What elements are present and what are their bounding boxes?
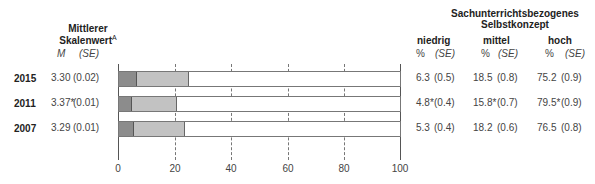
- niedrig-2015: 6.3: [416, 72, 430, 83]
- selfconcept-header-line2: Selbstkonzept: [440, 19, 590, 30]
- bar-segment-mittel: [137, 72, 189, 86]
- tick-0: 0: [115, 163, 121, 174]
- bar-2007: [118, 121, 401, 137]
- tick-20: 20: [169, 163, 180, 174]
- mean-header-line1: Mittlerer: [48, 23, 128, 34]
- row-mse-2015: (0.02): [73, 72, 99, 83]
- hoch-se-2015: (0.9): [561, 72, 582, 83]
- tick-80: 80: [338, 163, 349, 174]
- bar-2011: [118, 96, 401, 112]
- bar-segment-hoch: [189, 72, 400, 86]
- row-year-2011: 2011: [14, 98, 36, 109]
- row-m-2015: 3.30: [51, 72, 70, 83]
- hoch-se-2007: (0.8): [561, 122, 582, 133]
- mittel-se-2011: (0.7): [497, 97, 518, 108]
- niedrig-2011: 4.8*: [416, 97, 434, 108]
- row-m-2011: 3.37*: [51, 97, 74, 108]
- mittel-se-2007: (0.6): [497, 122, 518, 133]
- niedrig-se-2011: (0.4): [434, 97, 455, 108]
- hoch-pct-header: %: [545, 48, 554, 59]
- mittel-se-header: (SE): [498, 48, 518, 59]
- mean-header-superscript: A: [112, 34, 117, 41]
- bar-segment-hoch: [185, 122, 400, 136]
- hoch-se-2011: (0.9): [561, 97, 582, 108]
- mean-header: Mittlerer SkalenwertA: [48, 23, 128, 46]
- bar-segment-niedrig: [119, 122, 134, 136]
- hoch-se-header: (SE): [565, 48, 585, 59]
- hoch-2007: 76.5: [537, 122, 556, 133]
- hoch-2011: 79.5*: [537, 97, 560, 108]
- mittel-pct-header: %: [481, 48, 490, 59]
- selfconcept-header: Sachunterrichtsbezogenes Selbstkonzept: [440, 8, 590, 30]
- bar-segment-niedrig: [119, 72, 137, 86]
- row-mse-2011: (0.01): [73, 97, 99, 108]
- row-year-2015: 2015: [14, 73, 36, 84]
- bar-2015: [118, 71, 401, 87]
- bar-segment-mittel: [132, 97, 176, 111]
- mittel-se-2015: (0.8): [497, 72, 518, 83]
- group-label-mittel: mittel: [483, 35, 510, 46]
- mittel-2015: 18.5: [473, 72, 492, 83]
- niedrig-2007: 5.3: [416, 122, 430, 133]
- bar-segment-mittel: [134, 122, 185, 136]
- mean-col-se: (SE): [79, 48, 99, 59]
- tick-100: 100: [392, 163, 409, 174]
- selfconcept-header-line1: Sachunterrichtsbezogenes: [440, 8, 590, 19]
- group-label-hoch: hoch: [548, 35, 572, 46]
- row-mse-2007: (0.01): [73, 122, 99, 133]
- mean-header-line2-wrap: SkalenwertA: [48, 34, 128, 46]
- tick-40: 40: [225, 163, 236, 174]
- bar-segment-niedrig: [119, 97, 132, 111]
- mean-header-line2: Skalenwert: [59, 35, 112, 46]
- niedrig-se-2007: (0.4): [434, 122, 455, 133]
- niedrig-se-header: (SE): [435, 48, 455, 59]
- mittel-2011: 15.8*: [473, 97, 496, 108]
- niedrig-se-2015: (0.5): [434, 72, 455, 83]
- row-year-2007: 2007: [14, 123, 36, 134]
- tick-60: 60: [282, 163, 293, 174]
- bar-segment-hoch: [177, 97, 400, 111]
- hoch-2015: 75.2: [537, 72, 556, 83]
- niedrig-pct-header: %: [416, 48, 425, 59]
- mean-col-m: M: [57, 48, 65, 59]
- row-m-2007: 3.29: [51, 122, 70, 133]
- group-label-niedrig: niedrig: [417, 35, 450, 46]
- mittel-2007: 18.2: [473, 122, 492, 133]
